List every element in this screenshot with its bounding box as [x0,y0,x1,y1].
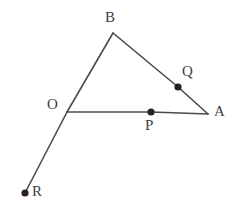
figure-canvas [0,0,239,211]
point-label-Q: Q [182,64,193,79]
point-label-B: B [105,10,115,25]
point-dot-P [147,108,154,115]
point-label-A: A [214,104,225,119]
line-through-B-O-R [25,33,113,193]
geometry-figure: B Q A O P R [0,0,239,211]
point-dot-R [21,189,28,196]
point-dot-Q [174,83,181,90]
point-label-O: O [47,97,58,112]
line-O-to-A [67,112,208,114]
segments-group [25,33,208,193]
point-label-P: P [145,118,153,133]
points-group [21,83,181,196]
line-B-to-A [113,33,208,114]
point-label-R: R [32,184,42,199]
